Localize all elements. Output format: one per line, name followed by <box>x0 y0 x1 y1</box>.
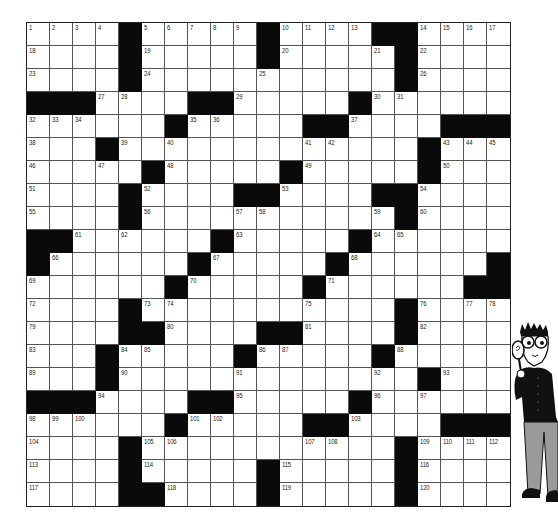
crossword-cell[interactable]: 112 <box>487 437 510 460</box>
crossword-cell[interactable] <box>441 345 464 368</box>
crossword-cell[interactable]: 117 <box>27 483 50 506</box>
crossword-cell[interactable]: 52 <box>142 184 165 207</box>
crossword-cell[interactable] <box>464 345 487 368</box>
crossword-cell[interactable] <box>441 253 464 276</box>
crossword-cell[interactable] <box>50 184 73 207</box>
crossword-cell[interactable] <box>234 276 257 299</box>
crossword-cell[interactable] <box>418 230 441 253</box>
crossword-cell[interactable] <box>441 207 464 230</box>
crossword-cell[interactable] <box>303 230 326 253</box>
crossword-cell[interactable] <box>372 276 395 299</box>
crossword-cell[interactable]: 11 <box>303 23 326 46</box>
crossword-cell[interactable] <box>96 253 119 276</box>
crossword-cell[interactable] <box>487 322 510 345</box>
crossword-cell[interactable]: 101 <box>188 414 211 437</box>
crossword-cell[interactable] <box>326 483 349 506</box>
crossword-cell[interactable]: 109 <box>418 437 441 460</box>
crossword-cell[interactable] <box>326 299 349 322</box>
crossword-cell[interactable] <box>349 46 372 69</box>
crossword-cell[interactable] <box>372 161 395 184</box>
crossword-cell[interactable] <box>441 299 464 322</box>
crossword-cell[interactable] <box>211 345 234 368</box>
crossword-cell[interactable] <box>349 368 372 391</box>
crossword-cell[interactable] <box>349 138 372 161</box>
crossword-cell[interactable]: 28 <box>119 92 142 115</box>
crossword-cell[interactable] <box>234 460 257 483</box>
crossword-cell[interactable]: 90 <box>119 368 142 391</box>
crossword-cell[interactable] <box>188 299 211 322</box>
crossword-cell[interactable]: 33 <box>50 115 73 138</box>
crossword-cell[interactable] <box>96 276 119 299</box>
crossword-cell[interactable] <box>234 115 257 138</box>
crossword-cell[interactable]: 18 <box>27 46 50 69</box>
crossword-cell[interactable]: 73 <box>142 299 165 322</box>
crossword-cell[interactable] <box>395 253 418 276</box>
crossword-cell[interactable] <box>395 276 418 299</box>
crossword-cell[interactable]: 66 <box>50 253 73 276</box>
crossword-cell[interactable] <box>303 184 326 207</box>
crossword-cell[interactable] <box>234 46 257 69</box>
crossword-cell[interactable] <box>441 184 464 207</box>
crossword-cell[interactable] <box>464 322 487 345</box>
crossword-cell[interactable]: 116 <box>418 460 441 483</box>
crossword-cell[interactable] <box>395 391 418 414</box>
crossword-cell[interactable]: 47 <box>96 161 119 184</box>
crossword-cell[interactable]: 102 <box>211 414 234 437</box>
crossword-cell[interactable] <box>487 184 510 207</box>
crossword-cell[interactable] <box>487 345 510 368</box>
crossword-cell[interactable] <box>349 299 372 322</box>
crossword-cell[interactable]: 68 <box>349 253 372 276</box>
crossword-cell[interactable] <box>234 253 257 276</box>
crossword-cell[interactable]: 24 <box>142 69 165 92</box>
crossword-cell[interactable] <box>395 115 418 138</box>
crossword-cell[interactable] <box>257 253 280 276</box>
crossword-cell[interactable] <box>372 253 395 276</box>
crossword-cell[interactable]: 108 <box>326 437 349 460</box>
crossword-cell[interactable]: 56 <box>142 207 165 230</box>
crossword-cell[interactable] <box>326 460 349 483</box>
crossword-cell[interactable] <box>326 92 349 115</box>
crossword-cell[interactable]: 98 <box>27 414 50 437</box>
crossword-cell[interactable] <box>349 437 372 460</box>
crossword-cell[interactable] <box>349 460 372 483</box>
crossword-cell[interactable] <box>119 161 142 184</box>
crossword-cell[interactable]: 82 <box>418 322 441 345</box>
crossword-cell[interactable] <box>211 184 234 207</box>
crossword-cell[interactable]: 110 <box>441 437 464 460</box>
crossword-cell[interactable]: 120 <box>418 483 441 506</box>
crossword-cell[interactable] <box>188 230 211 253</box>
crossword-cell[interactable]: 100 <box>73 414 96 437</box>
crossword-cell[interactable]: 14 <box>418 23 441 46</box>
crossword-cell[interactable] <box>50 322 73 345</box>
crossword-cell[interactable] <box>326 207 349 230</box>
crossword-cell[interactable]: 55 <box>27 207 50 230</box>
crossword-cell[interactable] <box>487 368 510 391</box>
crossword-cell[interactable] <box>441 322 464 345</box>
crossword-cell[interactable]: 113 <box>27 460 50 483</box>
crossword-cell[interactable] <box>165 207 188 230</box>
crossword-cell[interactable] <box>96 483 119 506</box>
crossword-cell[interactable] <box>372 115 395 138</box>
crossword-cell[interactable]: 118 <box>165 483 188 506</box>
crossword-cell[interactable] <box>372 460 395 483</box>
crossword-cell[interactable]: 19 <box>142 46 165 69</box>
crossword-cell[interactable] <box>165 46 188 69</box>
crossword-cell[interactable] <box>372 138 395 161</box>
crossword-cell[interactable] <box>257 437 280 460</box>
crossword-cell[interactable] <box>395 138 418 161</box>
crossword-cell[interactable] <box>326 184 349 207</box>
crossword-cell[interactable] <box>188 368 211 391</box>
crossword-cell[interactable] <box>395 414 418 437</box>
crossword-cell[interactable] <box>326 345 349 368</box>
crossword-cell[interactable] <box>441 276 464 299</box>
crossword-cell[interactable]: 84 <box>119 345 142 368</box>
crossword-cell[interactable] <box>303 483 326 506</box>
crossword-cell[interactable] <box>142 230 165 253</box>
crossword-cell[interactable] <box>280 69 303 92</box>
crossword-cell[interactable] <box>211 368 234 391</box>
crossword-cell[interactable]: 40 <box>165 138 188 161</box>
crossword-cell[interactable] <box>464 184 487 207</box>
crossword-cell[interactable] <box>119 115 142 138</box>
crossword-cell[interactable] <box>326 368 349 391</box>
crossword-cell[interactable]: 6 <box>165 23 188 46</box>
